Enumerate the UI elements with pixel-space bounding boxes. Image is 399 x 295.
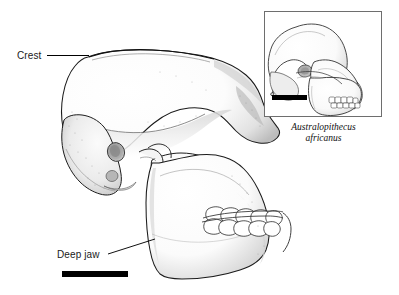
inset-tooth-row [329, 97, 360, 108]
inset-caption-species: africanus [264, 133, 383, 144]
scale-bar-main [62, 271, 128, 277]
crest-leader-line [47, 55, 89, 56]
inset-caption-genus: Australopithecus [264, 122, 383, 133]
inset-mandible [309, 77, 362, 115]
label-deep-jaw: Deep jaw [57, 249, 100, 261]
skull-illustration-figure: Crest Deep jaw Australopithecus africanu… [0, 0, 399, 295]
label-crest: Crest [17, 50, 41, 62]
scale-bar-inset [272, 95, 307, 100]
